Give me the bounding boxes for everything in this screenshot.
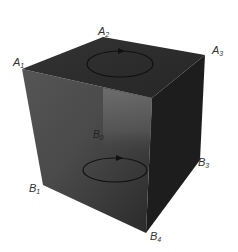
label-a1: A1 [13, 57, 24, 69]
label-b4: B4 [150, 231, 161, 243]
label-b1: B1 [29, 183, 40, 195]
label-b0: B0 [93, 130, 104, 141]
cube-diagram [0, 0, 238, 252]
label-a3: A3 [212, 45, 223, 57]
cube-inner-region [103, 88, 152, 160]
label-b3: B3 [198, 157, 209, 169]
label-a2: A2 [98, 26, 109, 38]
